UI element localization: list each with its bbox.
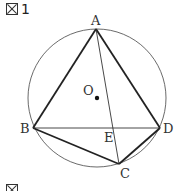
point-label-d: D <box>163 122 173 135</box>
segment-ad <box>96 29 160 128</box>
next-figure-label <box>6 183 18 191</box>
point-label-b: B <box>20 122 30 135</box>
point-label-o: O <box>83 84 94 97</box>
point-label-e: E <box>104 131 114 144</box>
center-dot-o <box>95 96 99 100</box>
point-label-c: C <box>120 167 130 180</box>
figure-icon <box>6 184 18 191</box>
segment-ab <box>33 29 96 128</box>
point-label-a: A <box>91 14 100 27</box>
segment-cd <box>119 128 160 164</box>
